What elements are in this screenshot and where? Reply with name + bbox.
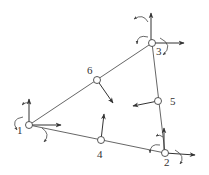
node-label-6: 6 bbox=[87, 64, 93, 76]
rotation-arrow-icon bbox=[42, 128, 47, 142]
rotation-arrow-icon bbox=[22, 103, 31, 105]
node-label-4: 4 bbox=[97, 148, 103, 160]
midside-dofs bbox=[97, 80, 158, 140]
arrow-normal-6-icon bbox=[97, 80, 113, 103]
triangle-element-diagram: 1 2 3 4 5 6 bbox=[0, 0, 209, 175]
labels: 1 2 3 4 5 6 bbox=[17, 45, 176, 168]
node-label-1: 1 bbox=[17, 124, 23, 136]
rotation-arrow-icon bbox=[156, 135, 163, 137]
node-label-2: 2 bbox=[164, 156, 170, 168]
node-1 bbox=[26, 122, 33, 129]
rotation-arrow-icon bbox=[137, 36, 148, 44]
node-3 bbox=[149, 40, 156, 47]
node-label-3: 3 bbox=[156, 45, 162, 57]
node-4 bbox=[98, 137, 105, 144]
node-6 bbox=[94, 77, 101, 84]
node-label-5: 5 bbox=[170, 95, 176, 107]
node-5 bbox=[155, 98, 162, 105]
edges bbox=[29, 43, 165, 153]
rotation-arrow-icon bbox=[134, 17, 148, 22]
node-2-dofs bbox=[150, 128, 195, 164]
rotation-arrow-icon bbox=[175, 150, 182, 164]
edge-3-1 bbox=[29, 43, 152, 125]
